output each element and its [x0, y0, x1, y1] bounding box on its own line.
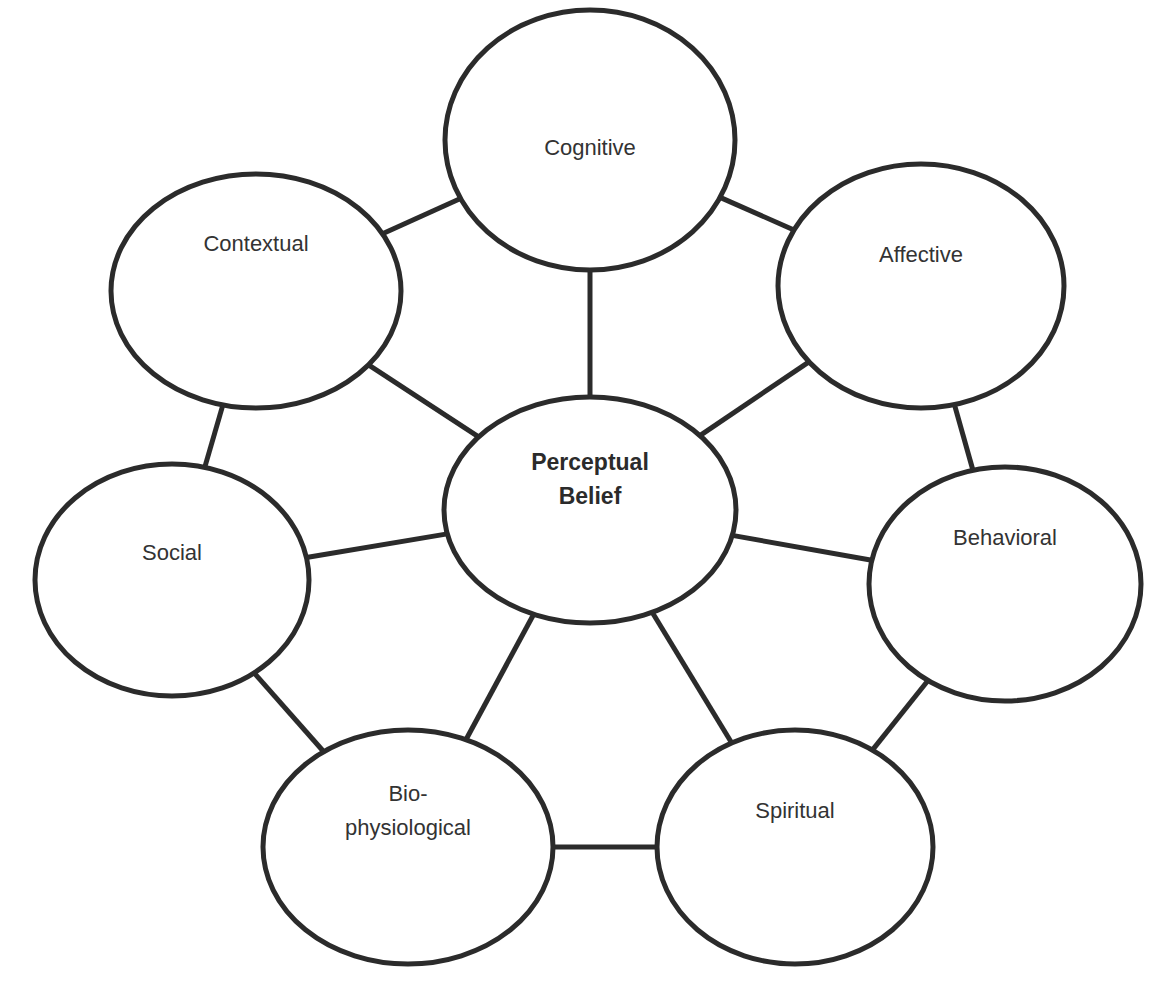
node-perceptual-label: Perceptual [531, 449, 649, 475]
node-behavioral-label: Behavioral [953, 525, 1057, 550]
node-social-ellipse [35, 464, 309, 696]
edge-behavioral-spiritual [872, 680, 928, 750]
perceptual-belief-diagram: PerceptualBeliefCognitiveAffectiveBehavi… [0, 0, 1176, 998]
nodes-layer: PerceptualBeliefCognitiveAffectiveBehavi… [35, 10, 1141, 964]
edge-contextual-cognitive [382, 199, 460, 234]
node-spiritual: Spiritual [657, 730, 933, 964]
node-cognitive-label: Cognitive [544, 135, 636, 160]
edge-perceptual-social [306, 534, 447, 558]
node-behavioral: Behavioral [869, 467, 1141, 701]
node-behavioral-ellipse [869, 467, 1141, 701]
node-biophysiological-ellipse [263, 730, 553, 964]
node-biophysiological: Bio-physiological [263, 730, 553, 964]
node-biophysiological-label: Bio- [388, 781, 427, 806]
edge-perceptual-affective [700, 362, 809, 436]
node-affective-ellipse [778, 164, 1064, 408]
node-perceptual-label: Belief [559, 483, 622, 509]
node-perceptual-ellipse [444, 397, 736, 623]
edge-biophysiological-social [254, 673, 324, 752]
node-contextual-ellipse [111, 174, 401, 408]
edge-perceptual-spiritual [652, 612, 732, 743]
edge-affective-behavioral [954, 405, 973, 471]
node-affective-label: Affective [879, 242, 963, 267]
edge-perceptual-behavioral [732, 535, 872, 560]
node-spiritual-label: Spiritual [755, 798, 834, 823]
edge-perceptual-contextual [369, 365, 479, 437]
edge-cognitive-affective [720, 197, 794, 230]
edge-social-contextual [205, 405, 223, 467]
node-social-label: Social [142, 540, 202, 565]
node-contextual: Contextual [111, 174, 401, 408]
node-biophysiological-label: physiological [345, 815, 471, 840]
node-social: Social [35, 464, 309, 696]
node-perceptual: PerceptualBelief [444, 397, 736, 623]
node-affective: Affective [778, 164, 1064, 408]
node-cognitive: Cognitive [445, 10, 735, 270]
node-contextual-label: Contextual [203, 231, 308, 256]
node-spiritual-ellipse [657, 730, 933, 964]
edge-perceptual-biophysiological [466, 614, 534, 739]
